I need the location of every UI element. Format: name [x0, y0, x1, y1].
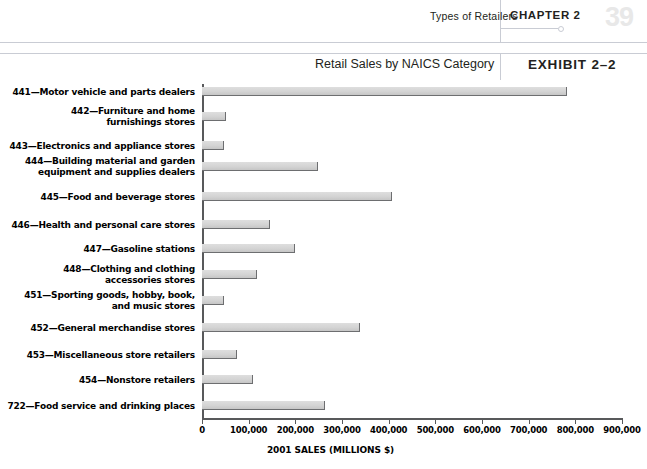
bar-category-label-line: 442—Furniture and home — [0, 106, 195, 117]
bar-category-label: 454—Nonstore retailers — [0, 375, 195, 386]
bar — [202, 401, 325, 410]
bar-category-label: 445—Food and beverage stores — [0, 192, 195, 203]
x-axis-tick-label: 700,000 — [510, 425, 547, 435]
bar-category-label-line: 447—Gasoline stations — [0, 244, 195, 255]
chapter-label: CHAPTER 2 — [510, 9, 581, 21]
x-axis-tick — [575, 420, 576, 424]
bar-category-label-line: 453—Miscellaneous store retailers — [0, 350, 195, 361]
bar-category-label-line: 454—Nonstore retailers — [0, 375, 195, 386]
bar-category-label-line: 445—Food and beverage stores — [0, 192, 195, 203]
bar-category-label-line: 446—Health and personal care stores — [0, 220, 195, 231]
bar — [202, 270, 257, 279]
bar-category-label: 446—Health and personal care stores — [0, 220, 195, 231]
exhibit-title: EXHIBIT 2–2 — [528, 57, 616, 72]
x-axis-tick — [482, 420, 483, 424]
x-axis-tick-label: 200,000 — [277, 425, 314, 435]
bar — [202, 141, 224, 150]
bar-category-label-line: accessories stores — [0, 275, 195, 286]
bar-category-label: 444—Building material and gardenequipmen… — [0, 156, 195, 177]
x-axis-tick — [529, 420, 530, 424]
header-divider-horizontal — [0, 42, 647, 43]
x-axis-tick-label: 500,000 — [417, 425, 454, 435]
bar — [202, 87, 567, 96]
bar — [202, 162, 318, 171]
bar-category-label-line: 722—Food service and drinking places — [0, 401, 195, 412]
bar-category-label-line: and music stores — [0, 301, 195, 312]
bar-category-label-line: 441—Motor vehicle and parts dealers — [0, 87, 195, 98]
bar-category-label: 443—Electronics and appliance stores — [0, 141, 195, 152]
bar-category-label-line: 443—Electronics and appliance stores — [0, 141, 195, 152]
bar-category-label: 441—Motor vehicle and parts dealers — [0, 87, 195, 98]
bar — [202, 112, 226, 121]
bar-category-label: 722—Food service and drinking places — [0, 401, 195, 412]
x-axis-tick — [295, 420, 296, 424]
header-dot-marker — [558, 26, 564, 32]
exhibit-header: Retail Sales by NAICS Category EXHIBIT 2… — [0, 53, 647, 81]
bar-category-label: 453—Miscellaneous store retailers — [0, 350, 195, 361]
bar-category-label: 448—Clothing and clothingaccessories sto… — [0, 264, 195, 285]
x-axis-tick-label: 300,000 — [323, 425, 360, 435]
bar — [202, 192, 392, 201]
x-axis-tick — [435, 420, 436, 424]
bar-category-label-line: 448—Clothing and clothing — [0, 264, 195, 275]
x-axis-tick — [389, 420, 390, 424]
bar — [202, 244, 295, 253]
exhibit-subtitle: Retail Sales by NAICS Category — [315, 57, 494, 71]
x-axis-tick — [249, 420, 250, 424]
bar — [202, 323, 360, 332]
x-axis-tick-label: 0 — [199, 425, 205, 435]
bar — [202, 296, 224, 305]
x-axis-tick — [342, 420, 343, 424]
bar-category-label-line: 444—Building material and garden — [0, 156, 195, 167]
x-axis-tick-label: 800,000 — [557, 425, 594, 435]
bar-chart: 441—Motor vehicle and parts dealers442—F… — [0, 84, 647, 469]
bar-category-label-line: 451—Sporting goods, hobby, book, — [0, 290, 195, 301]
page-header: Types of Retailers CHAPTER 2 39 — [0, 0, 647, 45]
x-axis-tick-label: 100,000 — [230, 425, 267, 435]
bar-category-label-line: 452—General merchandise stores — [0, 323, 195, 334]
bar — [202, 220, 270, 229]
page-number: 39 — [605, 4, 633, 31]
bar-category-label: 451—Sporting goods, hobby, book,and musi… — [0, 290, 195, 311]
x-axis-tick-label: 600,000 — [463, 425, 500, 435]
header-dot-leader-line — [500, 28, 558, 29]
bar-category-label-line: equipment and supplies dealers — [0, 167, 195, 178]
x-axis-tick-label: 900,000 — [603, 425, 640, 435]
running-head-title: Types of Retailers — [430, 10, 518, 22]
bar-category-label-line: furnishings stores — [0, 117, 195, 128]
bar — [202, 350, 237, 359]
bar-category-label: 452—General merchandise stores — [0, 323, 195, 334]
x-axis-line — [202, 418, 623, 420]
bar-category-label: 442—Furniture and homefurnishings stores — [0, 106, 195, 127]
x-axis-title-text: 2001 SALES (MILLIONS $) — [267, 445, 394, 455]
x-axis-tick-label: 400,000 — [370, 425, 407, 435]
x-axis-title: 2001 SALES (MILLIONS $) — [0, 445, 647, 455]
x-axis-tick — [202, 420, 203, 424]
bar-category-label: 447—Gasoline stations — [0, 244, 195, 255]
bar — [202, 375, 253, 384]
x-axis-tick — [622, 420, 623, 424]
